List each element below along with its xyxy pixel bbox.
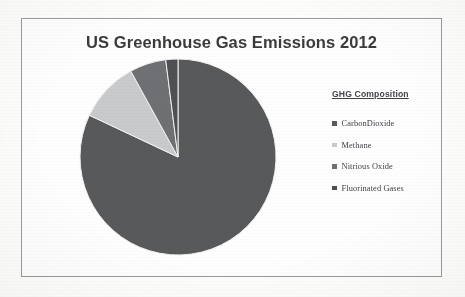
legend-title: GHG Composition <box>332 89 442 99</box>
legend-swatch-icon <box>332 186 337 191</box>
legend-item[interactable]: Nitrious Oxide <box>332 162 442 171</box>
legend-swatch-icon <box>332 164 337 169</box>
pie-chart <box>78 56 278 258</box>
legend-item[interactable]: CarbonDioxide <box>332 119 442 128</box>
legend-item[interactable]: Methane <box>332 141 442 150</box>
page-title: US Greenhouse Gas Emissions 2012 <box>22 33 441 52</box>
legend-item-label: Fluorinated Gases <box>342 184 404 193</box>
scanned-page: US Greenhouse Gas Emissions 2012 GHG Com… <box>0 0 465 297</box>
chart-legend: GHG Composition CarbonDioxideMethaneNitr… <box>332 89 442 205</box>
legend-swatch-icon <box>332 121 337 126</box>
legend-item-label: CarbonDioxide <box>342 119 395 128</box>
pie-slice-group <box>80 59 276 255</box>
chart-frame: US Greenhouse Gas Emissions 2012 GHG Com… <box>21 18 442 277</box>
legend-item[interactable]: Fluorinated Gases <box>332 184 442 193</box>
legend-item-label: Nitrious Oxide <box>342 162 393 171</box>
legend-item-list: CarbonDioxideMethaneNitrious OxideFluori… <box>332 119 442 193</box>
legend-swatch-icon <box>332 143 337 148</box>
legend-item-label: Methane <box>342 141 372 150</box>
pie-chart-svg <box>78 56 278 258</box>
